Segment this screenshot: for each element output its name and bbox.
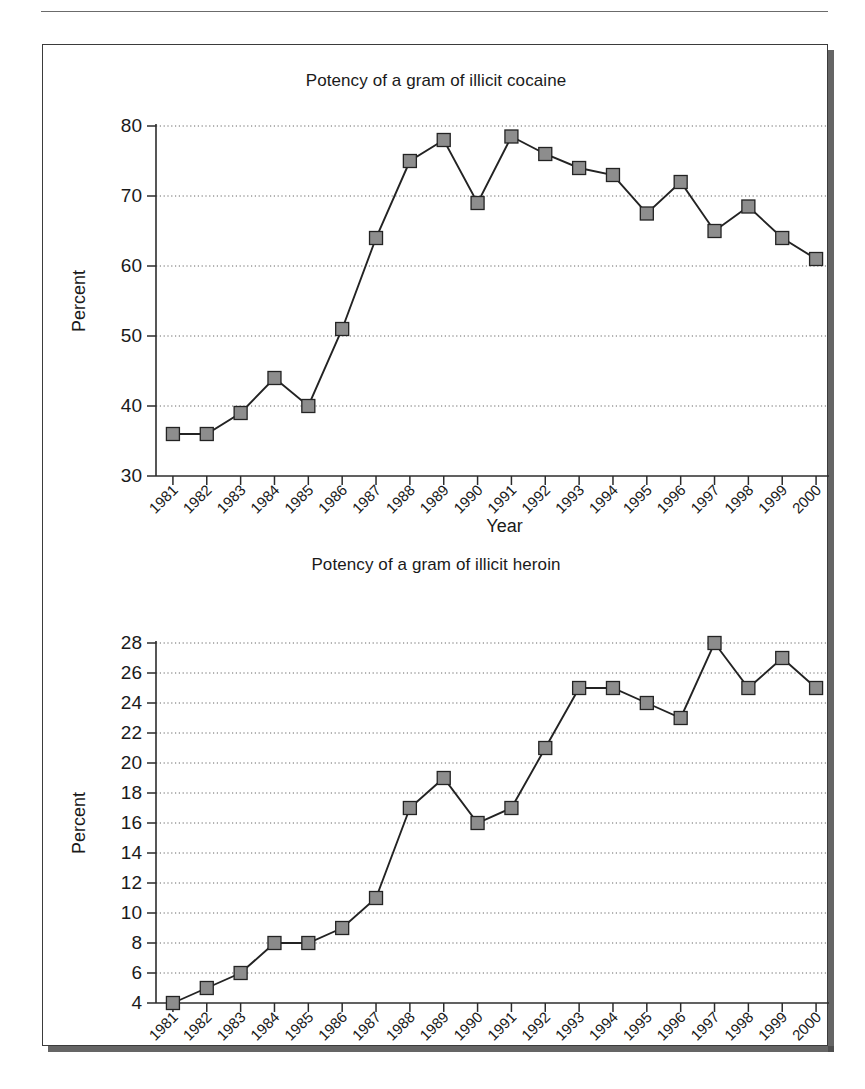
x-axis-title: Year (486, 1042, 522, 1045)
x-tick-label: 1993 (552, 1008, 588, 1044)
x-tick-label: 1992 (518, 1008, 554, 1044)
data-point-marker (471, 197, 484, 210)
data-point-marker (539, 148, 552, 161)
data-point-marker (505, 130, 518, 143)
x-tick-label: 1990 (450, 481, 486, 517)
data-point-marker (640, 697, 653, 710)
x-tick-label: 1982 (179, 481, 215, 517)
data-point-marker (166, 428, 179, 441)
data-point-marker (302, 400, 315, 413)
data-point-marker (200, 982, 213, 995)
data-point-marker (606, 169, 619, 182)
y-tick-label: 50 (121, 325, 142, 346)
data-point-marker (742, 200, 755, 213)
x-tick-label: 1987 (349, 481, 385, 517)
x-tick-label: 2000 (789, 481, 825, 517)
x-tick-label: 1981 (145, 481, 181, 517)
y-tick-label: 6 (131, 962, 142, 983)
x-tick-label: 1995 (619, 1008, 655, 1044)
chart-plot-cocaine: 3040506070801981198219831984198519861987… (43, 55, 829, 555)
x-tick-label: 1986 (315, 1008, 351, 1044)
x-tick-label: 1999 (755, 481, 791, 517)
x-tick-label: 1992 (518, 481, 554, 517)
data-point-marker (810, 682, 823, 695)
data-point-marker (505, 802, 518, 815)
data-point-marker (268, 372, 281, 385)
y-tick-label: 26 (121, 662, 142, 683)
x-tick-label: 1984 (247, 481, 283, 517)
y-tick-label: 14 (121, 842, 143, 863)
x-tick-label: 1983 (213, 481, 249, 517)
data-point-marker (166, 997, 179, 1010)
data-point-marker (606, 682, 619, 695)
x-tick-label: 1983 (213, 1008, 249, 1044)
x-tick-label: 1999 (755, 1008, 791, 1044)
x-tick-label: 1995 (619, 481, 655, 517)
y-axis-title: Percent (69, 270, 89, 332)
data-point-marker (302, 937, 315, 950)
x-tick-label: 1989 (416, 481, 452, 517)
data-point-marker (573, 682, 586, 695)
data-point-marker (708, 225, 721, 238)
data-point-marker (437, 134, 450, 147)
data-point-marker (674, 712, 687, 725)
y-tick-label: 60 (121, 255, 142, 276)
y-tick-label: 4 (131, 992, 142, 1013)
x-tick-label: 1998 (721, 1008, 757, 1044)
y-tick-label: 40 (121, 395, 142, 416)
x-tick-label: 1994 (585, 481, 621, 517)
x-tick-label: 1985 (281, 1008, 317, 1044)
series-line (173, 137, 816, 435)
y-tick-label: 30 (121, 465, 142, 486)
data-point-marker (674, 176, 687, 189)
x-tick-label: 1996 (653, 1008, 689, 1044)
data-point-marker (776, 232, 789, 245)
chart-panel-cocaine: Potency of a gram of illicit cocaine 304… (43, 55, 829, 555)
x-tick-label: 1982 (179, 1008, 215, 1044)
figure-shadow-bottom (48, 1046, 834, 1052)
x-tick-label: 1990 (450, 1008, 486, 1044)
x-tick-label: 1985 (281, 481, 317, 517)
data-point-marker (234, 967, 247, 980)
data-point-marker (742, 682, 755, 695)
x-tick-label: 1988 (382, 1008, 418, 1044)
x-tick-label: 1997 (687, 1008, 723, 1044)
x-tick-label: 1989 (416, 1008, 452, 1044)
y-tick-label: 16 (121, 812, 142, 833)
data-point-marker (810, 253, 823, 266)
y-tick-label: 20 (121, 752, 142, 773)
data-point-marker (776, 652, 789, 665)
data-point-marker (471, 817, 484, 830)
data-point-marker (403, 155, 416, 168)
y-tick-label: 80 (121, 115, 142, 136)
data-point-marker (640, 207, 653, 220)
x-tick-label: 1988 (382, 481, 418, 517)
x-tick-label: 1994 (585, 1008, 621, 1044)
x-tick-label: 1986 (315, 481, 351, 517)
x-tick-label: 1991 (484, 481, 520, 517)
x-tick-label: 1997 (687, 481, 723, 517)
x-tick-label: 1996 (653, 481, 689, 517)
x-tick-label: 1991 (484, 1008, 520, 1044)
data-point-marker (539, 742, 552, 755)
data-point-marker (336, 323, 349, 336)
y-tick-label: 28 (121, 632, 142, 653)
y-tick-label: 22 (121, 722, 142, 743)
y-tick-label: 18 (121, 782, 142, 803)
x-axis-title: Year (486, 516, 522, 536)
data-point-marker (403, 802, 416, 815)
chart-plot-heroin: 4681012141618202224262819811982198319841… (43, 550, 829, 1045)
chart-panel-heroin: Potency of a gram of illicit heroin 4681… (43, 550, 829, 1045)
x-tick-label: 2000 (789, 1008, 825, 1044)
x-tick-label: 1984 (247, 1008, 283, 1044)
x-tick-label: 1993 (552, 481, 588, 517)
data-point-marker (370, 892, 383, 905)
y-tick-label: 10 (121, 902, 142, 923)
header-rule (41, 11, 828, 12)
x-tick-label: 1998 (721, 481, 757, 517)
data-point-marker (437, 772, 450, 785)
y-axis-title: Percent (69, 792, 89, 854)
data-point-marker (234, 407, 247, 420)
data-point-marker (268, 937, 281, 950)
x-tick-label: 1987 (349, 1008, 385, 1044)
